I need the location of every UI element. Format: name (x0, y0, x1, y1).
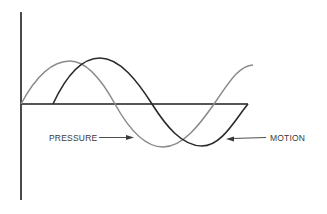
pressure-arrow (99, 135, 134, 140)
pressure-motion-diagram (0, 0, 327, 214)
motion-label: MOTION (270, 133, 305, 143)
pressure-label: PRESSURE (49, 133, 97, 143)
motion-arrow (226, 137, 266, 142)
